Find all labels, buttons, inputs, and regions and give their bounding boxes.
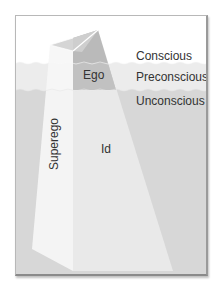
ego-label: Ego (83, 68, 104, 82)
preconscious-label: Preconscious (136, 70, 208, 84)
iceberg-diagram: Conscious Preconscious Unconscious Ego I… (15, 15, 208, 276)
id-label: Id (101, 142, 111, 156)
unconscious-label: Unconscious (136, 94, 205, 108)
conscious-label: Conscious (136, 49, 192, 63)
superego-label: Superego (47, 118, 61, 170)
